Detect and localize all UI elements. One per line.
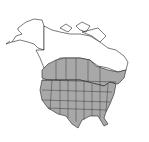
range-map (0, 0, 149, 142)
alaska-peninsula (6, 41, 12, 44)
north-america-map (0, 0, 149, 142)
alaska (12, 19, 44, 50)
